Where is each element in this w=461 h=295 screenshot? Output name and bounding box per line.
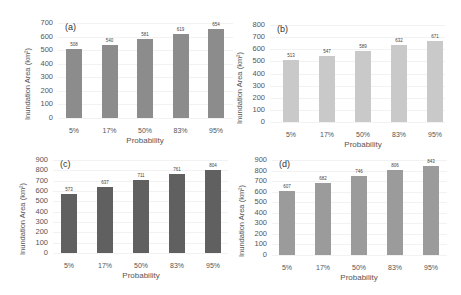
chart-panel-c: 01002003004005006007008009005735%63717%7… bbox=[0, 145, 230, 292]
bar-value-label: 804 bbox=[198, 163, 228, 168]
y-tick-label: 700 bbox=[245, 176, 267, 185]
y-tick-label: 0 bbox=[31, 113, 53, 122]
x-tick-label: 83% bbox=[380, 264, 410, 271]
y-tick-label: 500 bbox=[245, 197, 267, 206]
bar bbox=[66, 49, 82, 118]
y-tick-label: 0 bbox=[245, 250, 267, 259]
y-tick-label: 300 bbox=[245, 218, 267, 227]
bar-value-label: 761 bbox=[162, 167, 192, 172]
bar-value-label: 540 bbox=[95, 38, 125, 43]
bar bbox=[423, 166, 439, 255]
bar bbox=[387, 170, 403, 255]
y-tick-label: 300 bbox=[243, 81, 265, 90]
y-tick-label: 800 bbox=[243, 20, 265, 29]
y-axis-label: Inundation Area (km²) bbox=[235, 52, 244, 124]
y-tick-label: 500 bbox=[243, 56, 265, 65]
y-tick-label: 100 bbox=[245, 239, 267, 248]
y-tick-label: 200 bbox=[245, 229, 267, 238]
y-tick-label: 600 bbox=[245, 187, 267, 196]
bar bbox=[169, 174, 185, 253]
y-tick-label: 500 bbox=[31, 45, 53, 54]
bar bbox=[173, 34, 189, 118]
x-tick-label: 5% bbox=[276, 131, 306, 138]
gridline bbox=[272, 255, 447, 256]
y-tick-label: 600 bbox=[26, 186, 48, 195]
y-tick-label: 600 bbox=[243, 44, 265, 53]
x-tick-label: 95% bbox=[201, 127, 231, 134]
y-tick-label: 400 bbox=[245, 208, 267, 217]
y-tick-label: 900 bbox=[26, 155, 48, 164]
bar bbox=[137, 39, 153, 118]
bar-value-label: 508 bbox=[59, 42, 89, 47]
y-tick-label: 400 bbox=[31, 59, 53, 68]
y-tick-label: 400 bbox=[243, 69, 265, 78]
bar-value-label: 746 bbox=[344, 169, 374, 174]
y-tick-label: 0 bbox=[26, 248, 48, 257]
chart-panel-d: 01002003004005006007008009006075%68217%7… bbox=[230, 145, 460, 292]
bar bbox=[391, 45, 407, 122]
y-axis-label: Inundation Area (km²) bbox=[23, 48, 32, 120]
x-tick-label: 17% bbox=[312, 131, 342, 138]
bar bbox=[97, 187, 113, 253]
x-tick-label: 95% bbox=[198, 262, 228, 269]
bar-value-label: 513 bbox=[276, 53, 306, 58]
x-tick-label: 95% bbox=[420, 131, 450, 138]
y-tick-label: 200 bbox=[243, 93, 265, 102]
x-tick-label: 83% bbox=[166, 127, 196, 134]
x-tick-label: 50% bbox=[126, 262, 156, 269]
bar bbox=[279, 191, 295, 255]
x-tick-label: 5% bbox=[59, 127, 89, 134]
x-tick-label: 17% bbox=[308, 264, 338, 271]
y-tick-label: 100 bbox=[26, 238, 48, 247]
bar bbox=[61, 194, 77, 253]
x-tick-label: 50% bbox=[348, 131, 378, 138]
bar bbox=[133, 180, 149, 253]
bar-value-label: 671 bbox=[420, 34, 450, 39]
y-axis-label: Inundation Area (km²) bbox=[237, 185, 246, 257]
x-tick-label: 83% bbox=[162, 262, 192, 269]
x-tick-label: 5% bbox=[272, 264, 302, 271]
bar-value-label: 589 bbox=[348, 44, 378, 49]
bar-value-label: 682 bbox=[308, 176, 338, 181]
gridline bbox=[270, 122, 445, 123]
x-tick-label: 50% bbox=[130, 127, 160, 134]
bar-value-label: 806 bbox=[380, 163, 410, 168]
y-tick-label: 800 bbox=[26, 165, 48, 174]
bar bbox=[208, 29, 224, 118]
chart-panel-b: 01002003004005006007008005135%54717%5895… bbox=[230, 0, 460, 147]
x-axis-label: Probability bbox=[299, 273, 419, 282]
bar bbox=[319, 56, 335, 122]
bar bbox=[355, 51, 371, 122]
x-tick-label: 83% bbox=[384, 131, 414, 138]
bar-value-label: 581 bbox=[130, 32, 160, 37]
y-tick-label: 500 bbox=[26, 196, 48, 205]
bar-value-label: 547 bbox=[312, 49, 342, 54]
bar-value-label: 573 bbox=[54, 187, 84, 192]
gridline bbox=[53, 253, 228, 254]
bar-value-label: 632 bbox=[384, 38, 414, 43]
gridline bbox=[270, 37, 445, 38]
bar bbox=[351, 176, 367, 255]
x-axis-label: Probability bbox=[81, 271, 201, 280]
panel-label: (b) bbox=[277, 24, 288, 34]
bar-value-label: 637 bbox=[90, 180, 120, 185]
chart-panel-a: 01002003004005006007005085%54017%58150%6… bbox=[0, 0, 230, 147]
gridline bbox=[53, 160, 228, 161]
gridline bbox=[58, 118, 233, 119]
y-tick-label: 0 bbox=[243, 117, 265, 126]
panel-label: (a) bbox=[65, 22, 76, 32]
y-tick-label: 200 bbox=[26, 227, 48, 236]
bar bbox=[315, 183, 331, 255]
y-tick-label: 700 bbox=[31, 18, 53, 27]
y-tick-label: 200 bbox=[31, 86, 53, 95]
bar bbox=[205, 170, 221, 253]
bar-value-label: 607 bbox=[272, 184, 302, 189]
y-tick-label: 400 bbox=[26, 207, 48, 216]
x-tick-label: 5% bbox=[54, 262, 84, 269]
x-tick-label: 95% bbox=[416, 264, 446, 271]
y-tick-label: 700 bbox=[26, 176, 48, 185]
y-tick-label: 800 bbox=[245, 166, 267, 175]
x-axis-label: Probability bbox=[85, 136, 205, 145]
panel-label: (c) bbox=[60, 159, 71, 169]
bar-value-label: 619 bbox=[166, 27, 196, 32]
